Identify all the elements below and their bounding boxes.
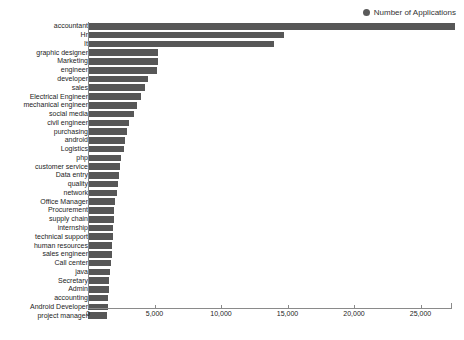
bar-track [88, 40, 274, 49]
category-label: supply chain [0, 215, 88, 223]
bar-row: sales [0, 83, 464, 92]
category-label: android [0, 136, 88, 144]
bar[interactable] [88, 190, 117, 197]
bar-track [88, 206, 114, 215]
bar-track [88, 267, 110, 276]
bar[interactable] [88, 172, 119, 179]
bar-track [88, 215, 114, 224]
bar[interactable] [88, 251, 112, 258]
bar[interactable] [88, 163, 120, 170]
bar-track [88, 31, 284, 40]
category-label: engineer [0, 66, 88, 74]
category-label: Office Manager [0, 198, 88, 206]
bar-track [88, 285, 109, 294]
bar[interactable] [88, 260, 111, 267]
category-label: Logistics [0, 145, 88, 153]
bar[interactable] [88, 128, 127, 135]
applications-bar-chart: Number of Applications accountantHrItgra… [0, 0, 464, 340]
y-axis-line [88, 22, 89, 308]
category-label: mechanical engineer [0, 101, 88, 109]
category-label: civil engineer [0, 119, 88, 127]
bar[interactable] [88, 225, 113, 232]
bar-row: Electrical Engineer [0, 92, 464, 101]
category-label: network [0, 189, 88, 197]
bar[interactable] [88, 155, 121, 162]
bar-row: Marketing [0, 57, 464, 66]
bar[interactable] [88, 93, 141, 100]
bar-row: accounting [0, 294, 464, 303]
category-label: sales engineer [0, 250, 88, 258]
bar-track [88, 127, 127, 136]
bar-row: Procurement [0, 206, 464, 215]
tick-mark [221, 305, 222, 308]
bar-row: quality [0, 180, 464, 189]
bar-row: purchasing [0, 127, 464, 136]
bar[interactable] [88, 207, 114, 214]
bar[interactable] [88, 111, 134, 118]
category-label: Procurement [0, 206, 88, 214]
bar[interactable] [88, 58, 158, 65]
bar[interactable] [88, 102, 137, 109]
bar-row: graphic designer [0, 48, 464, 57]
category-label: internship [0, 224, 88, 232]
bar[interactable] [88, 146, 124, 153]
bar-track [88, 241, 112, 250]
bar[interactable] [88, 269, 110, 276]
bar-row: Office Manager [0, 197, 464, 206]
category-label: developer [0, 75, 88, 83]
bar[interactable] [88, 216, 114, 223]
bar[interactable] [88, 198, 115, 205]
category-label: java [0, 268, 88, 276]
bar[interactable] [88, 137, 125, 144]
tick-mark [88, 305, 89, 308]
bar-track [88, 136, 125, 145]
bar[interactable] [88, 181, 118, 188]
bar-track [88, 92, 141, 101]
plot-area: accountantHrItgraphic designerMarketinge… [0, 22, 464, 308]
bar-track [88, 259, 111, 268]
legend-circle-icon [363, 9, 370, 16]
bar[interactable] [88, 67, 157, 74]
bar-row: engineer [0, 66, 464, 75]
category-label: technical support [0, 233, 88, 241]
bar-row: human resources [0, 241, 464, 250]
bar[interactable] [88, 233, 113, 240]
bar-row: technical support [0, 232, 464, 241]
tick-mark [288, 305, 289, 308]
bar[interactable] [88, 32, 284, 39]
bar-track [88, 153, 121, 162]
category-label: Call center [0, 259, 88, 267]
chart-legend: Number of Applications [363, 6, 456, 18]
category-label: accountant [0, 22, 88, 30]
bar-track [88, 171, 119, 180]
category-label: Admin [0, 285, 88, 293]
bar-track [88, 66, 157, 75]
bar[interactable] [88, 242, 112, 249]
bar[interactable] [88, 84, 145, 91]
x-axis-ticks: 05,00010,00015,00020,00025,000 [0, 308, 464, 328]
bar[interactable] [88, 49, 158, 56]
bar[interactable] [88, 277, 109, 284]
tick-mark [354, 305, 355, 308]
category-label: quality [0, 180, 88, 188]
bar-row: It [0, 40, 464, 49]
bar-track [88, 232, 113, 241]
bar-row: network [0, 189, 464, 198]
bar[interactable] [88, 120, 129, 127]
x-axis-tick-label: 5,000 [146, 310, 164, 318]
bar-track [88, 180, 118, 189]
bar[interactable] [88, 286, 109, 293]
bar-track [88, 189, 117, 198]
category-label: sales [0, 84, 88, 92]
bar-row: Admin [0, 285, 464, 294]
category-label: human resources [0, 242, 88, 250]
bar-track [88, 197, 115, 206]
bar-track [88, 101, 137, 110]
bar-row: android [0, 136, 464, 145]
bar[interactable] [88, 295, 108, 302]
bar[interactable] [88, 23, 455, 30]
bar[interactable] [88, 76, 148, 83]
bar[interactable] [88, 41, 274, 48]
category-label: Electrical Engineer [0, 93, 88, 101]
bar-row: customer service [0, 162, 464, 171]
